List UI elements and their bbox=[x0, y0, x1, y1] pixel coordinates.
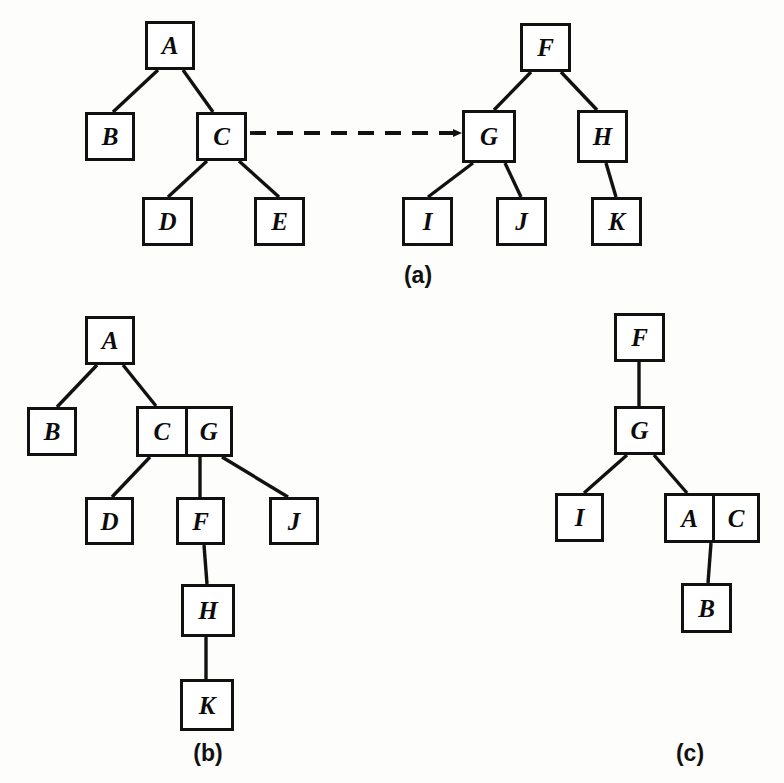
tree-node-a-f: F bbox=[520, 23, 571, 72]
tree-node-b-d: D bbox=[85, 497, 134, 545]
tree-edge-a-c-e bbox=[239, 161, 279, 197]
tree-edge-a-a-b bbox=[113, 70, 158, 112]
tree-merge-figure: ABCDEFGHIJKABDFJHKFGIBCGAC (a) (b) (c) bbox=[0, 0, 784, 783]
tree-edge-a-a-c bbox=[183, 70, 213, 112]
tree-node-c-f: F bbox=[614, 313, 665, 362]
panel-label-c: (c) bbox=[650, 740, 730, 767]
tree-node-c-b: B bbox=[681, 583, 732, 633]
tree-node-b-f: F bbox=[176, 497, 225, 545]
tree-edge-b-a-cg bbox=[123, 365, 156, 406]
tree-edge-a-f-g bbox=[494, 72, 531, 110]
tree-node-a-i: I bbox=[402, 197, 453, 246]
tree-edge-a-g-j bbox=[505, 163, 521, 197]
tree-node-c-i: I bbox=[555, 493, 604, 542]
tree-edge-b-cg-j bbox=[222, 457, 288, 497]
tree-node-b-cg: CG bbox=[136, 406, 233, 457]
tree-node-b-b: B bbox=[27, 407, 77, 456]
tree-node-a-c: C bbox=[196, 112, 247, 161]
tree-node-c-ac: AC bbox=[664, 493, 760, 543]
tree-node-cell-right: G bbox=[185, 409, 231, 454]
tree-node-b-a: A bbox=[85, 316, 135, 365]
tree-edge-b-a-b bbox=[57, 365, 97, 407]
tree-node-b-k: K bbox=[180, 679, 234, 731]
tree-edge-c-g-ac bbox=[654, 455, 687, 493]
tree-node-a-j: J bbox=[496, 197, 547, 246]
tree-edge-b-f-h bbox=[204, 545, 207, 584]
tree-node-cell-left: A bbox=[667, 496, 712, 540]
tree-node-a-a: A bbox=[145, 21, 195, 70]
tree-node-a-b: B bbox=[85, 112, 135, 161]
panel-label-a: (a) bbox=[378, 262, 458, 289]
panel-label-b: (b) bbox=[168, 740, 248, 767]
tree-edge-a-f-h bbox=[561, 72, 597, 110]
tree-edge-c-g-i bbox=[584, 455, 627, 493]
tree-edge-a-g-i bbox=[428, 163, 473, 197]
tree-node-a-g: G bbox=[462, 110, 516, 163]
tree-node-c-g: G bbox=[614, 406, 665, 455]
tree-node-a-h: H bbox=[577, 110, 628, 163]
tree-node-cell-left: C bbox=[139, 409, 185, 454]
tree-node-b-j: J bbox=[269, 497, 319, 545]
tree-node-a-e: E bbox=[254, 197, 305, 246]
tree-node-a-d: D bbox=[142, 197, 193, 246]
tree-node-a-k: K bbox=[591, 197, 642, 246]
tree-node-b-h: H bbox=[181, 584, 235, 637]
tree-edge-c-ac-b bbox=[708, 543, 711, 583]
tree-edge-b-cg-d bbox=[112, 457, 150, 497]
tree-edge-a-h-k bbox=[606, 163, 616, 197]
tree-node-cell-right: C bbox=[712, 496, 757, 540]
tree-edge-a-c-d bbox=[168, 161, 207, 197]
